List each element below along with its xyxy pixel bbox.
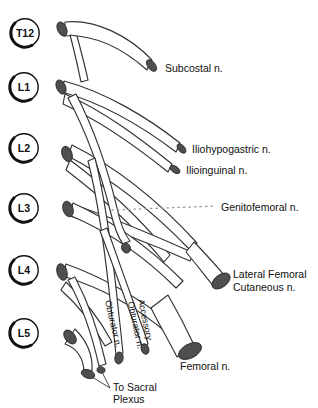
sacral-plexus-label-line1: To Sacral	[113, 381, 157, 393]
root-badge-l2-label: L2	[18, 142, 30, 154]
genitofemoral-label: Genitofemoral n.	[221, 201, 299, 213]
root-badges: T12 L1 L2 L3 L4 L5	[10, 19, 39, 347]
root-badge-l5-label: L5	[18, 327, 30, 339]
t12-l1-communicating-branch	[70, 35, 88, 82]
root-badge-l2: L2	[10, 134, 38, 162]
root-badge-t12: T12	[11, 19, 39, 47]
sacral-plexus-label-line2: Plexus	[113, 393, 145, 405]
lumbar-plexus-diagram: Subcostal n. Iliohypogastric n. Ilioingu…	[0, 0, 318, 408]
root-badge-l1-label: L1	[18, 81, 30, 93]
lateral-femoral-cutaneous-label-line2: Cutaneous n.	[233, 281, 295, 293]
root-badge-l4-label: L4	[18, 264, 30, 276]
iliohypogastric-label: Iliohypogastric n.	[192, 143, 271, 155]
accessory-obturator-label: Accessory Obturator n.	[126, 298, 156, 349]
diagram-canvas: Subcostal n. Iliohypogastric n. Ilioingu…	[0, 0, 318, 408]
root-badge-l3-label: L3	[18, 202, 30, 214]
root-badge-l3: L3	[10, 194, 38, 222]
root-badge-t12-label: T12	[16, 27, 34, 39]
root-badge-l1: L1	[10, 73, 38, 101]
ilioinguinal-label: Ilioinguinal n.	[186, 164, 247, 176]
lateral-femoral-cutaneous-label-line1: Lateral Femoral	[233, 268, 307, 280]
subcostal-label: Subcostal n.	[165, 62, 223, 74]
root-badge-l4: L4	[10, 256, 38, 284]
femoral-label: Femoral n.	[180, 360, 230, 372]
lumbosacral-trunk-end-cap	[96, 366, 105, 374]
root-badge-l5: L5	[10, 319, 38, 347]
